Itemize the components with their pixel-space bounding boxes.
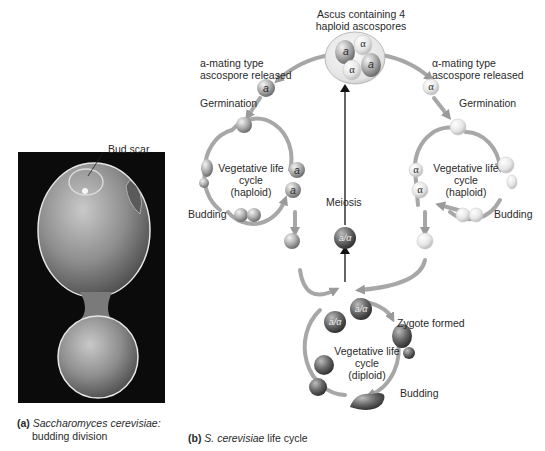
- veg-haploid-right-line2: cycle: [454, 174, 478, 186]
- ascus-spore-alpha-1: α: [356, 38, 370, 50]
- ascus-label-line1: Ascus containing 4: [317, 8, 405, 20]
- a-cell-label-2: a: [286, 184, 300, 196]
- budding-left-label: Budding: [188, 208, 227, 220]
- alpha-released-line2: ascospore released: [432, 69, 524, 81]
- germination-left-label: Germination: [200, 97, 257, 109]
- ascus-label: Ascus containing 4 haploid ascospores: [305, 8, 417, 32]
- veg-diploid-label: Vegetative life cycle (diploid): [331, 345, 403, 381]
- a-released-label: a-mating type ascospore released: [200, 57, 292, 81]
- bud-scar-leader-line: [88, 153, 103, 176]
- budding-bottom-label: Budding: [400, 387, 439, 399]
- ascus-spore-a-2: a: [364, 58, 378, 70]
- veg-haploid-right-line1: Vegetative life: [433, 162, 498, 174]
- veg-diploid-line1: Vegetative life: [334, 345, 399, 357]
- alpha-cell-label-2: α: [413, 184, 427, 196]
- veg-haploid-left-line3: (haploid): [231, 186, 272, 198]
- alpha-released-line1: α-mating type: [432, 57, 496, 69]
- veg-haploid-right-label: Vegetative life cycle (haploid): [430, 162, 502, 198]
- diploid-label-meiosis: a/α: [333, 232, 357, 244]
- ascus-label-line2: haploid ascospores: [316, 20, 406, 32]
- diploid-label-zygote: a/α: [349, 303, 373, 315]
- diploid-label-2: a/α: [323, 316, 347, 328]
- ascus-spore-alpha-2: α: [345, 64, 359, 76]
- alpha-spore-label: α: [424, 81, 438, 93]
- meiosis-label: Meiosis: [326, 196, 362, 208]
- a-spore-label: a: [259, 82, 273, 94]
- a-released-line2: ascospore released: [200, 69, 292, 81]
- zygote-formed-label: Zygote formed: [397, 317, 465, 329]
- veg-diploid-line2: cycle: [355, 357, 379, 369]
- a-cell-label-1: a: [290, 164, 304, 176]
- alpha-released-label: α-mating type ascospore released: [432, 57, 524, 81]
- veg-haploid-left-line2: cycle: [239, 174, 263, 186]
- germination-right-label: Germination: [459, 97, 516, 109]
- veg-diploid-line3: (diploid): [348, 369, 385, 381]
- veg-haploid-left-line1: Vegetative life: [218, 162, 283, 174]
- a-released-line1: a-mating type: [200, 57, 264, 69]
- a-germinating-cell: [236, 117, 252, 133]
- veg-haploid-left-label: Vegetative life cycle (haploid): [215, 162, 287, 198]
- ascus-spore-a-1: a: [339, 45, 353, 57]
- veg-haploid-right-line3: (haploid): [446, 186, 487, 198]
- alpha-cell-label-1: α: [409, 164, 423, 176]
- budding-right-label: Budding: [494, 208, 533, 220]
